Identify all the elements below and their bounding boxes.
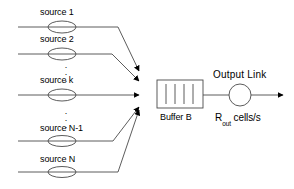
rate-subscript: out — [222, 120, 231, 127]
buffer-label: Buffer B — [160, 113, 192, 122]
output-link-node — [229, 84, 251, 106]
source-k-label: source k — [40, 76, 73, 85]
source-2-link — [18, 54, 139, 81]
source-n-label: source N — [40, 155, 75, 164]
output-link-label: Output Link — [213, 70, 266, 80]
diagram-canvas: source 1 source 2 . . . source k . . . s… — [0, 0, 294, 189]
source-n-1-label: source N-1 — [40, 124, 83, 133]
source-2-label: source 2 — [40, 35, 74, 44]
buffer-box — [157, 80, 203, 108]
source-1-link — [18, 27, 139, 71]
output-rate-label: Rout cells/s — [215, 113, 261, 126]
source-1-label: source 1 — [40, 8, 74, 17]
rate-units: cells/s — [234, 112, 261, 123]
